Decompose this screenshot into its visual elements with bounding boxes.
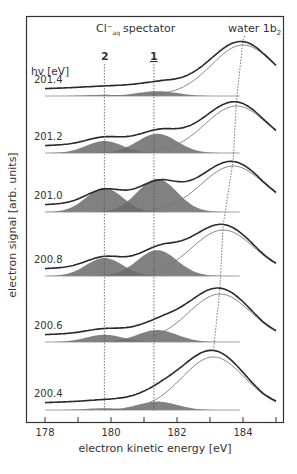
traces <box>45 42 276 411</box>
hv-value-label: 201.4 <box>34 74 63 85</box>
water-dispersion-line <box>213 36 244 352</box>
hv-value-label: 201.0 <box>34 190 63 201</box>
x-axis-label: electron kinetic energy [eV] <box>78 442 231 455</box>
data-curve <box>45 288 276 335</box>
fitted-component <box>45 402 240 410</box>
data-curve <box>45 350 276 402</box>
x-tick-label: 182 <box>167 427 186 438</box>
hv-value-label: 200.4 <box>34 388 63 399</box>
water-fit-curve <box>151 45 276 94</box>
spectator-label: Cl⁻aqspectator <box>96 22 176 37</box>
hv-value-label: 200.8 <box>34 254 63 265</box>
x-tick-label: 178 <box>35 427 54 438</box>
x-axis-ticks: 178180182184 <box>35 417 276 438</box>
reference-lines <box>104 36 244 412</box>
x-tick-label: 184 <box>233 427 252 438</box>
hv-labels: 201.4201.2201.0200.8200.6200.4 <box>34 74 63 399</box>
water-1b2-label: water 1b2 <box>228 22 281 37</box>
peak-2-label: 2 <box>101 50 109 63</box>
data-curve <box>45 42 276 89</box>
fitted-component <box>45 91 240 96</box>
y-axis-label: electron signal [arb. units] <box>6 152 19 297</box>
hv-value-label: 201.2 <box>34 131 63 142</box>
spectra-chart: 178180182184 Cl⁻aqspectator water 1b2 2 … <box>0 0 297 474</box>
hv-value-label: 200.6 <box>34 320 63 331</box>
peak-1-label: 1 <box>150 50 158 63</box>
water-fit-curve <box>151 357 276 402</box>
plot-frame <box>27 17 284 423</box>
x-tick-label: 180 <box>101 427 120 438</box>
